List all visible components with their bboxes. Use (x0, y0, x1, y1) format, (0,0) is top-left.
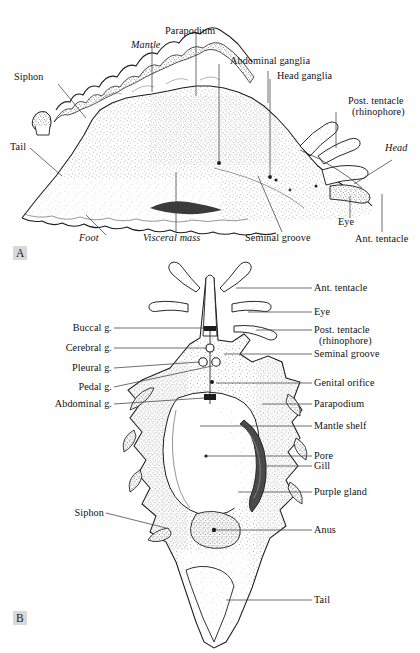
label-parapodium-a: Parapodium (165, 25, 215, 36)
label-head-a: Head (385, 142, 407, 153)
label-gill-b: Gill (314, 460, 330, 471)
head-ganglia-dot-a-2 (274, 178, 277, 181)
abdominal-ganglia-b (204, 394, 216, 400)
label-eye-b: Eye (314, 306, 330, 317)
siphon-opening-a (35, 126, 50, 135)
anatomy-figure: Siphon Mantle Parapodium Abdominal gangl… (0, 0, 420, 653)
label-tail-a: Tail (10, 141, 26, 152)
label-purple-gland-b: Purple gland (314, 486, 367, 497)
label-pedal-g-b: Pedal g. (32, 381, 112, 392)
label-rhinophore-a: (rhinophore) (352, 106, 405, 117)
label-anus-b: Anus (314, 524, 336, 535)
label-seminal-groove-b: Seminal groove (314, 348, 380, 359)
label-siphon-b: Siphon (52, 507, 104, 518)
post-tentacle-b-right (232, 301, 271, 312)
eye-dot-a (315, 185, 318, 188)
caption-crop (72, 646, 232, 653)
label-cerebral-g-b: Cerebral g. (32, 342, 112, 353)
cerebral-ganglia-b (206, 344, 214, 352)
label-mantle-a: Mantle (131, 39, 160, 50)
buccal-ganglia-b (204, 326, 216, 331)
label-post-tentacle-b: Post. tentacle (314, 324, 370, 335)
label-rhinophore-b: (rhinophore) (319, 335, 372, 346)
ant-tentacle-a (322, 166, 368, 186)
label-genital-orifice-b: Genital orifice (314, 377, 375, 388)
panel-a-lateral-view: Siphon Mantle Parapodium Abdominal gangl… (0, 0, 420, 270)
post-tentacle-b-left (149, 301, 188, 312)
label-siphon-a: Siphon (14, 71, 43, 82)
panel-letter-b: B (13, 611, 27, 625)
label-buccal-g-b: Buccal g. (32, 322, 112, 333)
panel-a-drawing (0, 0, 420, 270)
label-parapodium-b: Parapodium (314, 398, 364, 409)
panel-b-dorsal-view: Ant. tentacle Eye Post. tentacle (rhinop… (0, 270, 420, 653)
label-abdominal-ganglia-a: Abdominal ganglia (230, 55, 310, 66)
head-ganglia-dot-a-3 (289, 189, 292, 192)
label-pleural-g-b: Pleural g. (32, 362, 112, 373)
label-head-ganglia-a: Head ganglia (277, 70, 332, 81)
label-post-tentacle-a: Post. tentacle (348, 95, 404, 106)
panel-letter-a: A (13, 246, 27, 260)
label-eye-a: Eye (338, 216, 354, 227)
label-seminal-groove-a: Seminal groove (245, 232, 311, 243)
label-mantle-shelf-b: Mantle shelf (314, 420, 366, 431)
label-tail-b: Tail (314, 594, 330, 605)
pleural-ganglia-b (199, 358, 207, 366)
pedal-ganglia-b (212, 358, 220, 366)
post-tentacle-a-2 (318, 138, 360, 164)
label-visceral-mass-a: Visceral mass (143, 232, 200, 243)
genital-orifice-b (210, 380, 214, 384)
label-abdominal-g-b: Abdominal g. (22, 398, 112, 409)
label-foot-a: Foot (79, 232, 99, 243)
label-ant-tentacle-a: Ant. tentacle (355, 233, 408, 244)
label-ant-tentacle-b: Ant. tentacle (314, 282, 367, 293)
